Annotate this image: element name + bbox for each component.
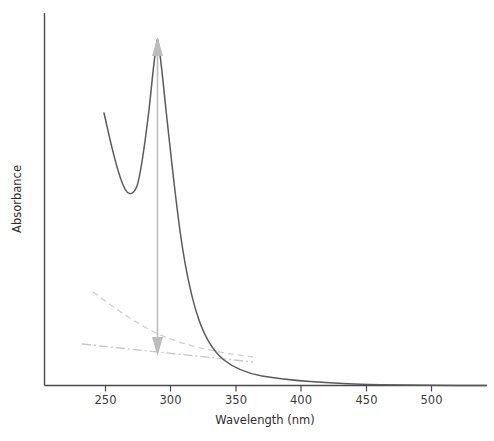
y-axis-title: Absorbance: [10, 165, 24, 233]
x-tick-label-1: 300: [160, 393, 182, 407]
chart-canvas: 250 300 350 400 450 500 Wavelength (nm) …: [0, 0, 494, 441]
x-tick-label-4: 450: [356, 393, 378, 407]
baseline-group: [82, 292, 253, 362]
uv-vis-absorbance-figure: 250 300 350 400 450 500 Wavelength (nm) …: [0, 0, 494, 441]
peak-height-double-arrow: [152, 37, 163, 356]
x-axis-title: Wavelength (nm): [215, 413, 314, 427]
x-tick-label-2: 350: [225, 393, 247, 407]
x-axis-tick-labels: 250 300 350 400 450 500: [95, 393, 443, 407]
x-tick-label-0: 250: [95, 393, 117, 407]
linear-baseline-dashdot: [82, 344, 253, 362]
x-tick-label-3: 400: [290, 393, 312, 407]
absorbance-spectrum-curve: [104, 39, 486, 386]
spectrum-group: [104, 39, 486, 386]
axes-group: 250 300 350 400 450 500 Wavelength (nm) …: [10, 13, 487, 427]
x-tick-label-5: 500: [421, 393, 443, 407]
arrow-head-up-icon: [152, 37, 163, 56]
arrow-head-down-icon: [152, 337, 163, 356]
x-axis-tick-marks: [106, 386, 432, 392]
